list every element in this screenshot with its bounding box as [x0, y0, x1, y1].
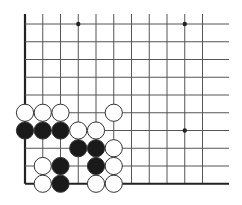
white-stone[interactable] — [105, 140, 122, 157]
white-stone[interactable] — [87, 175, 104, 192]
white-stone[interactable] — [105, 175, 122, 192]
white-stone[interactable] — [105, 157, 122, 174]
grid-lines — [25, 14, 229, 184]
black-stone[interactable] — [52, 175, 69, 192]
black-stone[interactable] — [52, 122, 69, 139]
black-stone[interactable] — [16, 122, 33, 139]
go-board[interactable] — [0, 0, 242, 205]
white-stone[interactable] — [34, 157, 51, 174]
white-stone[interactable] — [70, 122, 87, 139]
black-stone[interactable] — [87, 157, 104, 174]
black-stone[interactable] — [52, 157, 69, 174]
white-stone[interactable] — [87, 122, 104, 139]
white-stone[interactable] — [16, 104, 33, 121]
white-stone[interactable] — [34, 104, 51, 121]
black-stone[interactable] — [87, 140, 104, 157]
star-point — [76, 22, 80, 26]
white-stone[interactable] — [52, 104, 69, 121]
star-point — [183, 22, 187, 26]
white-stone[interactable] — [34, 175, 51, 192]
black-stone[interactable] — [34, 122, 51, 139]
black-stone[interactable] — [70, 140, 87, 157]
star-point — [183, 128, 187, 132]
white-stone[interactable] — [105, 104, 122, 121]
